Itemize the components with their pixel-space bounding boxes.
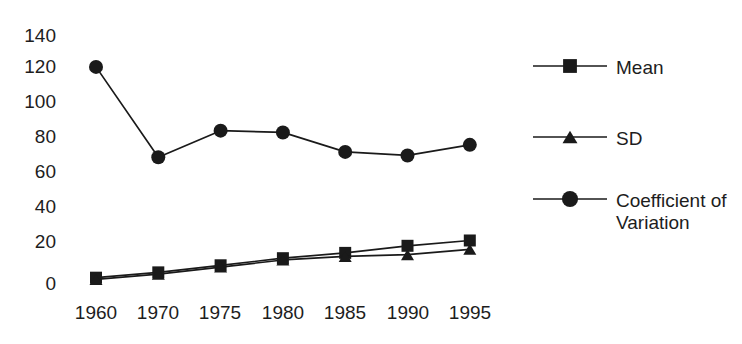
legend-label-sd: SD: [616, 128, 642, 150]
data-point-coefficient-of-variation-1995: [463, 138, 477, 152]
legend-label-coefficient-of-variation: Coefficient of Variation: [616, 190, 727, 234]
data-point-coefficient-of-variation-1970: [151, 150, 165, 164]
series-layer: [89, 60, 477, 285]
plot-area: [0, 0, 742, 344]
series-line-coefficient-of-variation: [96, 67, 470, 157]
data-point-coefficient-of-variation-1990: [401, 148, 415, 162]
data-point-coefficient-of-variation-1975: [214, 124, 228, 138]
legend-marker-layer: [533, 59, 607, 207]
line-chart-figure: 140 120 100 80 60 40 20 0 1960 1970 1975…: [0, 0, 742, 344]
data-point-coefficient-of-variation-1980: [276, 125, 290, 139]
legend-marker-square: [563, 59, 577, 73]
legend-label-mean: Mean: [616, 57, 664, 79]
legend-marker-circle: [562, 191, 578, 207]
data-point-coefficient-of-variation-1960: [89, 60, 103, 74]
data-point-coefficient-of-variation-1985: [338, 145, 352, 159]
